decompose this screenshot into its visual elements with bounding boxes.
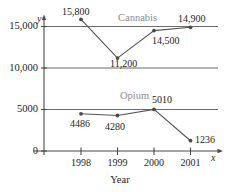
data-label-opium-1998: 4486 [70, 119, 90, 129]
x-tick-label-1998: 1998 [61, 158, 101, 168]
data-point-opium-1998 [79, 112, 83, 116]
data-label-opium-1999: 4280 [105, 122, 125, 132]
x-axis-letter: x [211, 153, 215, 163]
x-tick-label-1999: 1999 [98, 158, 138, 168]
x-axis-arrow-icon [218, 149, 224, 153]
data-point-opium-1999 [116, 114, 120, 118]
x-tick-label-2000: 2000 [134, 158, 174, 168]
y-tick-label-15000: 15,000 [0, 21, 38, 32]
data-label-cannabis-1998: 15,800 [62, 7, 90, 17]
data-point-cannabis-1998 [79, 18, 83, 22]
y-tick-label-10000: 10,000 [0, 63, 38, 74]
y-axis-arrow-icon [42, 15, 46, 21]
series-label-opium: Opium [120, 91, 149, 102]
y-axis-letter: y [37, 14, 41, 24]
data-label-opium-2000: 5010 [152, 95, 172, 105]
data-label-cannabis-2000: 14,500 [152, 36, 180, 46]
data-point-cannabis-2000 [152, 29, 156, 33]
y-tick-label-5000: 5000 [0, 104, 38, 115]
data-point-opium-2000 [152, 108, 156, 112]
series-label-cannabis: Cannabis [118, 13, 157, 24]
data-label-cannabis-1999: 11,200 [110, 59, 137, 69]
chart-container: 15,000 10,000 5000 0 y x 1998 1999 2000 … [0, 0, 232, 192]
data-point-opium-2001 [189, 139, 193, 143]
data-label-cannabis-2001: 14,900 [178, 14, 206, 24]
x-axis-title: Year [90, 175, 150, 186]
y-tick-label-0: 0 [0, 146, 38, 157]
data-point-cannabis-2001 [189, 25, 193, 29]
series-line-opium [81, 109, 191, 140]
data-label-opium-2001: 1236 [195, 135, 215, 145]
x-tick-label-2001: 2001 [171, 158, 211, 168]
